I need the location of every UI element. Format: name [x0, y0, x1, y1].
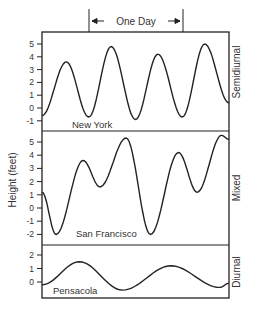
y-tick-label: 3: [29, 65, 34, 75]
y-tick-label: 4: [29, 52, 34, 62]
panel-label-semidiurnal: Semidiurnal: [231, 46, 242, 99]
tide-curve-mixed: [42, 135, 229, 234]
panel-label-mixed: Mixed: [231, 175, 242, 202]
y-tick-label: -1: [26, 116, 34, 126]
plot-frame: [42, 32, 229, 298]
tide-curve-semidiurnal: [42, 44, 229, 120]
one-day-label: One Day: [116, 16, 155, 27]
y-tick-label: 4: [29, 150, 34, 160]
y-tick-label: 1: [29, 190, 34, 200]
location-pensacola: Pensacola: [53, 285, 98, 296]
tide-chart: One Day 543210-1543210-1-2210 Height (fe…: [0, 0, 260, 321]
panel-label-diurnal: Diurnal: [231, 256, 242, 288]
location-san-francisco: San Francisco: [76, 228, 137, 239]
y-tick-label: 5: [29, 39, 34, 49]
y-tick-label: 2: [29, 77, 34, 87]
y-tick-label: 3: [29, 163, 34, 173]
y-tick-label: -2: [26, 229, 34, 239]
y-tick-label: 0: [29, 103, 34, 113]
y-tick-label: 2: [29, 250, 34, 260]
y-tick-label: 1: [29, 90, 34, 100]
y-tick-label: -1: [26, 216, 34, 226]
y-tick-label: 1: [29, 264, 34, 274]
y-tick-label: 5: [29, 137, 34, 147]
y-tick-label: 0: [29, 203, 34, 213]
y-tick-label: 2: [29, 177, 34, 187]
location-new-york: New York: [72, 119, 112, 130]
y-axis-label: Height (feet): [7, 152, 18, 207]
y-tick-label: 0: [29, 277, 34, 287]
panels: 543210-1543210-1-2210: [26, 39, 229, 290]
